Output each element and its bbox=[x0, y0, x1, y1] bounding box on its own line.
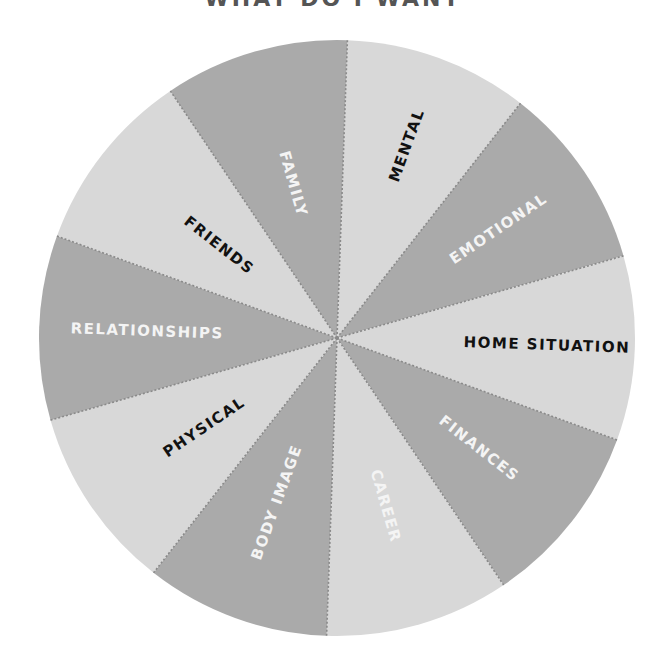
life-wheel: MENTALEMOTIONALHOME SITUATIONFINANCESCAR… bbox=[0, 0, 666, 660]
